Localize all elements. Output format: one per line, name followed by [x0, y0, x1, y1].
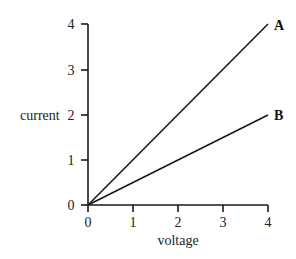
- x-tick-label-4: 4: [265, 215, 272, 230]
- series-a-label: A: [274, 18, 285, 33]
- series-a-line: [88, 24, 268, 205]
- x-tick-label-0: 0: [85, 215, 92, 230]
- y-tick-label-1: 1: [68, 153, 75, 168]
- y-tick-label-0: 0: [68, 198, 75, 213]
- x-axis-label: voltage: [157, 233, 198, 248]
- x-tick-label-1: 1: [130, 215, 137, 230]
- y-tick-label-3: 3: [68, 63, 75, 78]
- y-tick-label-2: 2: [68, 108, 75, 123]
- y-tick-label-4: 4: [68, 17, 75, 32]
- x-tick-label-3: 3: [220, 215, 227, 230]
- chart: 0 1 2 3 4 0 1 2 3 4 voltage current A B: [0, 0, 296, 259]
- x-tick-label-2: 2: [175, 215, 182, 230]
- y-axis-label: current: [20, 108, 60, 123]
- series-b-line: [88, 115, 268, 205]
- series-b-label: B: [274, 108, 283, 123]
